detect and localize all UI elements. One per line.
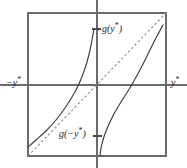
y-star-superscript: * [175,75,179,84]
curve-right-branch [100,25,163,156]
neg-y-star-label: −y* [6,78,21,88]
plot-canvas [0,0,187,168]
g-neg-y-star-base: g(−y [59,128,79,139]
figure-container: −y* y* g(y*) g(−y*) [0,0,187,168]
neg-y-star-superscript: * [17,75,21,84]
neg-y-star-base: −y [6,77,17,88]
g-y-star-label: g(y*) [102,24,122,34]
g-neg-y-star-label: g(−y*) [59,129,86,139]
g-y-star-tail: ) [119,23,122,34]
y-star-label: y* [171,78,179,88]
g-y-star-base: g(y [102,23,115,34]
g-neg-y-star-tail: ) [83,128,86,139]
